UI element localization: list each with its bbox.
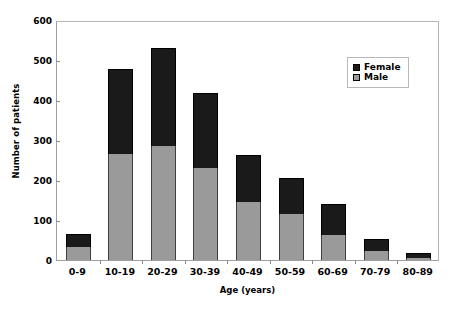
x-tick-label: 0-9: [69, 266, 86, 277]
bar-segment-male: [406, 258, 431, 260]
legend-item: Male: [353, 73, 401, 82]
bar-segment-female: [321, 204, 346, 234]
x-tick-label: 30-39: [190, 266, 220, 277]
x-tick-label: 60-69: [317, 266, 347, 277]
y-tick-label: 100: [0, 216, 56, 226]
y-tick-label: 0: [0, 256, 56, 266]
bar-segment-male: [151, 146, 176, 260]
chart-figure: Number of patients 0100200300400500600 0…: [0, 0, 462, 315]
x-tick-label: 10-19: [105, 266, 135, 277]
bar-group: [364, 239, 389, 260]
x-axis-ticks: 0-910-1920-2930-3940-4950-5960-6970-7980…: [56, 266, 439, 282]
bar-segment-male: [236, 202, 261, 260]
bar-segment-male: [193, 168, 218, 260]
y-tick-label: 500: [0, 56, 56, 66]
x-tick-mark: [312, 260, 313, 264]
x-tick-label: 70-79: [360, 266, 390, 277]
x-tick-mark: [355, 260, 356, 264]
bar-group: [236, 155, 261, 260]
y-tick-label: 400: [0, 96, 56, 106]
bar-segment-male: [321, 235, 346, 260]
x-tick-label: 40-49: [232, 266, 262, 277]
legend-label: Male: [364, 73, 388, 82]
y-tick-label: 300: [0, 136, 56, 146]
bar-segment-female: [364, 239, 389, 251]
legend-swatch-icon: [353, 74, 360, 81]
x-tick-label: 50-59: [275, 266, 305, 277]
bar-group: [279, 178, 304, 260]
chart-legend: FemaleMale: [347, 57, 409, 88]
x-tick-mark: [100, 260, 101, 264]
bar-segment-male: [364, 251, 389, 260]
bar-segment-male: [66, 247, 91, 260]
bar-segment-female: [151, 48, 176, 146]
bar-segment-female: [236, 155, 261, 201]
bar-group: [321, 204, 346, 260]
y-tick-mark: [56, 141, 60, 142]
y-tick-label: 600: [0, 16, 56, 26]
legend-item: Female: [353, 63, 401, 72]
bar-group: [108, 69, 133, 260]
bar-segment-female: [108, 69, 133, 155]
x-tick-label: 20-29: [147, 266, 177, 277]
bar-group: [193, 93, 218, 260]
x-axis-title: Age (years): [56, 285, 439, 295]
bar-segment-male: [108, 154, 133, 260]
x-tick-mark: [227, 260, 228, 264]
bar-segment-female: [193, 93, 218, 169]
y-tick-mark: [56, 61, 60, 62]
legend-label: Female: [364, 63, 401, 72]
x-tick-mark: [142, 260, 143, 264]
bar-group: [66, 234, 91, 260]
y-tick-mark: [56, 181, 60, 182]
y-tick-mark: [56, 221, 60, 222]
bar-segment-female: [279, 178, 304, 213]
bar-segment-male: [279, 214, 304, 260]
bar-group: [406, 253, 431, 260]
legend-swatch-icon: [353, 64, 360, 71]
x-tick-label: 80-89: [403, 266, 433, 277]
y-tick-label: 200: [0, 176, 56, 186]
x-tick-mark: [270, 260, 271, 264]
y-axis-ticks: 0100200300400500600: [0, 0, 56, 315]
x-tick-mark: [397, 260, 398, 264]
bar-segment-female: [66, 234, 91, 247]
x-tick-mark: [185, 260, 186, 264]
bar-group: [151, 48, 176, 260]
y-tick-mark: [56, 101, 60, 102]
